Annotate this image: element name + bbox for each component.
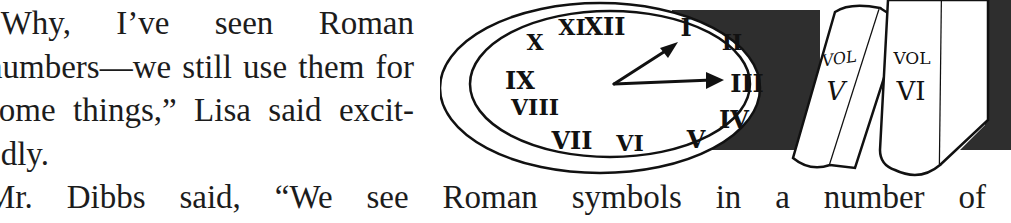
numeral-vi: VI xyxy=(615,130,643,156)
numeral-i: I xyxy=(680,13,691,42)
book-page: “Why, I’ve seen Roman numbers—we still u… xyxy=(0,0,1011,223)
numeral-viii: VIII xyxy=(510,94,559,120)
book-6-vol-label: VOL xyxy=(892,48,930,68)
text-line: Mr. Dibbs said, “We see Roman symbols in… xyxy=(0,176,986,220)
paragraph-lisa: “Why, I’ve seen Roman numbers—we still u… xyxy=(0,2,414,176)
numeral-iii: III xyxy=(730,69,764,98)
numeral-vii: VII xyxy=(550,126,592,155)
clock-icon: XII I II III IV V VI VII VIII IX X XI xyxy=(440,3,764,173)
numeral-iv: IV xyxy=(719,105,749,134)
paragraph-mr-dibbs: Mr. Dibbs said, “We see Roman symbols in… xyxy=(0,176,986,220)
book-5-number-label: V xyxy=(827,76,848,106)
clock-and-books-illustration: XII I II III IV V VI VII VIII IX X XI xyxy=(440,0,1011,178)
book-6-number-label: VI xyxy=(895,76,925,106)
text-line: “Why, I’ve seen Roman xyxy=(0,2,414,46)
numeral-x: X xyxy=(526,29,544,55)
numeral-ii: II xyxy=(722,29,743,55)
numeral-v: V xyxy=(686,125,706,154)
numeral-xii: XII xyxy=(584,12,625,41)
numeral-xi: XI xyxy=(558,14,585,40)
text-line: some things,” Lisa said excit- xyxy=(0,89,414,133)
text-line: edly. xyxy=(0,133,414,177)
numeral-ix: IX xyxy=(505,66,535,95)
illustration-svg: XII I II III IV V VI VII VIII IX X XI xyxy=(440,0,1011,178)
text-line: numbers—we still use them for xyxy=(0,46,414,90)
